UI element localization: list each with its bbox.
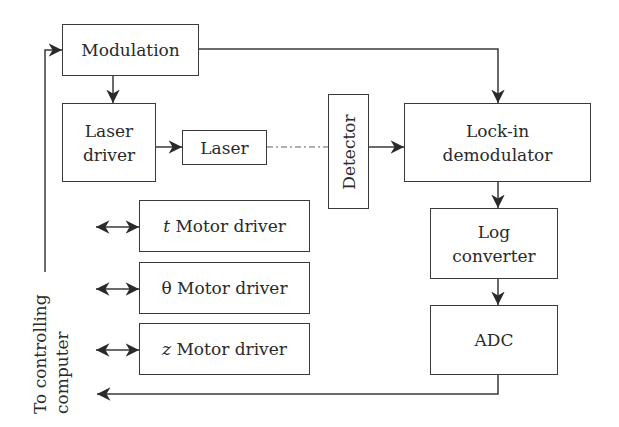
log-converter-block: Log converter [430,208,558,279]
diagram: Modulation Laser driver Laser Detector L… [0,0,619,427]
modulation-block: Modulation [62,24,199,76]
lockin-demodulator-block: Lock-in demodulator [404,103,591,182]
theta-motor-driver-block: θ Motor driver [139,262,310,314]
side-label: To controlling computer [29,274,73,414]
z-motor-driver-block: z Motor driver [139,323,310,375]
adc-block: ADC [430,305,558,375]
detector-block: Detector [328,94,369,209]
laser-block: Laser [182,130,267,165]
t-motor-driver-block: t Motor driver [139,200,310,252]
laser-driver-block: Laser driver [62,103,156,182]
feedback-arrow [45,50,62,272]
